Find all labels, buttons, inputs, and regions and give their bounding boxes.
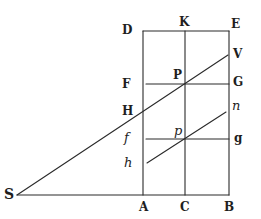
label-D: D — [122, 24, 132, 36]
label-f: f — [124, 131, 129, 144]
label-g: g — [234, 132, 242, 144]
label-K: K — [179, 16, 189, 28]
label-V: V — [233, 48, 242, 60]
label-B: B — [224, 201, 234, 213]
label-F: F — [122, 78, 131, 90]
label-A: A — [139, 201, 148, 213]
label-E: E — [231, 18, 240, 30]
label-G: G — [233, 76, 243, 88]
segment-hn — [147, 112, 226, 163]
label-P: P — [173, 69, 182, 81]
label-p: p — [174, 124, 182, 137]
label-H: H — [122, 105, 133, 117]
label-C: C — [180, 201, 190, 213]
segment-SV — [17, 55, 228, 195]
label-n: n — [232, 99, 240, 112]
label-h: h — [124, 156, 132, 169]
label-S: S — [4, 187, 14, 201]
